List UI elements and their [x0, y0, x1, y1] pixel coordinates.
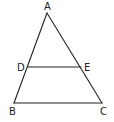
segment-ac: [47, 13, 102, 103]
segment-ab: [14, 13, 47, 103]
vertex-label-c: C: [100, 106, 107, 117]
point-label-e: E: [84, 62, 90, 73]
vertex-label-b: B: [9, 106, 16, 117]
point-label-d: D: [17, 62, 25, 73]
vertex-label-a: A: [44, 1, 51, 12]
triangle-diagram: A D E B C: [0, 0, 114, 122]
